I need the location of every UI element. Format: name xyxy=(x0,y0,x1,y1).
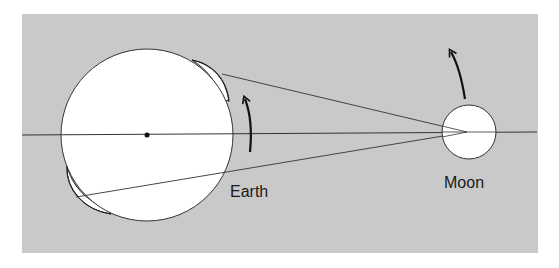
moon-label: Moon xyxy=(444,174,484,191)
earth-label: Earth xyxy=(230,183,268,200)
earth-center-dot xyxy=(145,133,150,138)
tidal-bulge-diagram: Earth Moon xyxy=(0,0,559,268)
